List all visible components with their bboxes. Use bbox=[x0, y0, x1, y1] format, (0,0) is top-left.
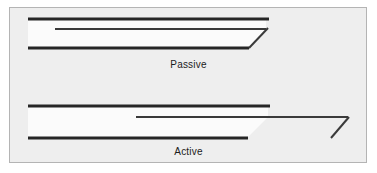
diagram-frame bbox=[9, 7, 367, 163]
active-label: Active bbox=[0, 146, 377, 157]
figure-root: Passive Active bbox=[0, 0, 377, 173]
passive-label: Passive bbox=[0, 59, 377, 70]
